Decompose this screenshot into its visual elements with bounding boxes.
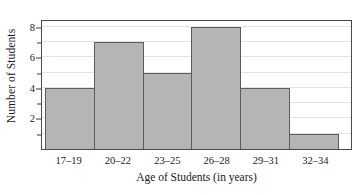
y-axis-tick-label: 6 xyxy=(30,53,35,64)
bar xyxy=(240,88,290,149)
bar xyxy=(191,27,241,149)
bar xyxy=(94,42,144,149)
bar-group xyxy=(45,21,339,149)
bar xyxy=(143,73,193,149)
x-axis-tick-label: 20–22 xyxy=(93,153,142,169)
x-axis-tick-label: 29–31 xyxy=(241,153,290,169)
bar xyxy=(289,134,339,149)
bar xyxy=(45,88,95,149)
x-axis-tick-label: 26–28 xyxy=(192,153,241,169)
bars-layer xyxy=(42,21,351,149)
x-axis-tick-label: 23–25 xyxy=(143,153,192,169)
y-axis-tick-label: 2 xyxy=(30,114,35,125)
y-axis-tick-label-group: 2468 xyxy=(22,20,36,150)
x-axis-tick-label: 17–19 xyxy=(44,153,93,169)
x-axis-title: Age of Students (in years) xyxy=(41,171,352,183)
y-axis-title-text: Number of Students xyxy=(5,29,17,123)
x-axis-tick-label-group: 17–1920–2223–2526–2829–3132–34 xyxy=(44,153,340,169)
histogram-figure: Number of Students 2468 17–1920–2223–252… xyxy=(0,0,358,195)
y-axis-tick-label: 8 xyxy=(30,22,35,33)
x-axis-tick-label: 32–34 xyxy=(291,153,340,169)
plot-area xyxy=(41,20,352,150)
y-axis-title: Number of Students xyxy=(0,0,22,152)
y-axis-tick-label: 4 xyxy=(30,84,35,95)
